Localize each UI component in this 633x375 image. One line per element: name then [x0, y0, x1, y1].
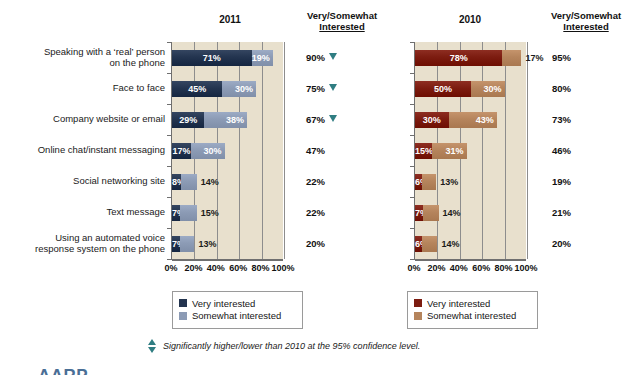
bar-value-label-somewhat: 43% [476, 115, 494, 125]
significantly-lower-arrow-icon [329, 53, 337, 60]
bar-segment-somewhat: 30% [191, 143, 225, 159]
legend-swatch-very-icon [179, 299, 187, 307]
total-value: 22% [306, 207, 325, 218]
bar-value-label-somewhat: 14% [201, 177, 219, 187]
bar-row: 15%31% [415, 143, 526, 159]
significance-marker-icon [148, 339, 157, 353]
bar-segment-very: 78% [415, 50, 502, 66]
bar-row: 29%38% [172, 112, 283, 128]
category-label-line: Social networking site [0, 176, 165, 187]
total-value-text: 22% [306, 207, 325, 218]
bar-segment-very: 6% [415, 174, 422, 190]
bar-value-label-somewhat: 14% [441, 239, 459, 249]
total-value-text: 75% [306, 83, 325, 94]
bar-value-label-somewhat: 13% [440, 177, 458, 187]
bar-segment-somewhat: 14% [422, 236, 438, 252]
category-label-line: Speaking with a ‘real’ person [0, 47, 165, 58]
legend-swatch-somewhat-icon [414, 312, 422, 320]
footnote-text: Significantly higher/lower than 2010 at … [163, 341, 420, 351]
bar-value-label-very: 15% [415, 146, 432, 156]
totals-header-left: Very/Somewhat Interested [294, 10, 390, 32]
total-value: 80% [552, 83, 571, 94]
category-label: Online chat/instant messaging [0, 145, 165, 156]
category-label-line: response system on the phone [0, 244, 165, 255]
category-label-line: Face to face [0, 83, 165, 94]
bar-value-label-somewhat: 38% [226, 115, 244, 125]
legend-label-somewhat: Somewhat interested [192, 310, 281, 321]
y-axis-tick [410, 228, 415, 229]
bar-value-label-very: 71% [172, 53, 252, 63]
bar-row: 6%14% [415, 236, 526, 252]
bar-segment-very: 6% [415, 236, 422, 252]
bar-row: 8%14% [172, 174, 283, 190]
category-label-line: Online chat/instant messaging [0, 145, 165, 156]
y-axis-tick [167, 42, 172, 43]
gridline [284, 42, 285, 259]
bar-value-label-very: 29% [172, 115, 204, 125]
bar-value-label-very: 7% [172, 208, 180, 218]
totals-header-left-line1: Very/Somewhat [294, 10, 390, 21]
bar-segment-very: 8% [172, 174, 181, 190]
plot-area-2010: 78%17%50%30%30%43%15%31%6%13%7%14%6%14% [414, 42, 526, 259]
y-axis-tick [167, 197, 172, 198]
bar-value-label-somewhat: 31% [446, 146, 464, 156]
category-label-line: Company website or email [0, 114, 165, 125]
total-value-text: 90% [306, 52, 325, 63]
bar-value-label-somewhat: 30% [204, 146, 222, 156]
gridline [527, 42, 528, 259]
legend-row-somewhat-2010: Somewhat interested [414, 310, 529, 321]
significantly-lower-arrow-icon [329, 84, 337, 91]
bar-value-label-very: 45% [172, 84, 222, 94]
y-axis-tick [167, 73, 172, 74]
bar-segment-very: 7% [172, 205, 180, 221]
y-axis-tick [167, 259, 172, 260]
y-axis-tick [167, 135, 172, 136]
y-axis-tick [167, 228, 172, 229]
bar-value-label-very: 78% [415, 53, 502, 63]
total-value-text: 22% [306, 176, 325, 187]
category-label: Social networking site [0, 176, 165, 187]
bar-value-label-very: 17% [172, 146, 191, 156]
panel-title-2010: 2010 [420, 14, 520, 25]
legend-row-very-2011: Very interested [179, 298, 294, 309]
bar-segment-very: 7% [172, 236, 180, 252]
y-axis-tick [167, 166, 172, 167]
bar-row: 6%13% [415, 174, 526, 190]
legend-label-very: Very interested [192, 298, 255, 309]
bar-value-label-somewhat: 30% [235, 84, 253, 94]
bar-value-label-somewhat: 17% [525, 53, 543, 63]
bar-segment-somewhat: 38% [204, 112, 247, 128]
totals-header-right: Very/Somewhat Interested [538, 10, 633, 32]
bar-value-label-somewhat: 19% [252, 53, 270, 63]
bar-segment-somewhat: 19% [252, 50, 273, 66]
y-axis-tick [410, 197, 415, 198]
total-value: 73% [552, 114, 571, 125]
category-label-line: Using an automated voice [0, 233, 165, 244]
bar-segment-very: 15% [415, 143, 432, 159]
total-value-text: 47% [306, 145, 325, 156]
total-value: 90% [306, 52, 337, 63]
total-value: 21% [552, 207, 571, 218]
bar-segment-very: 50% [415, 81, 471, 97]
y-axis-tick [410, 135, 415, 136]
bar-value-label-very: 7% [415, 208, 423, 218]
total-value-text: 21% [552, 207, 571, 218]
bar-segment-somewhat: 17% [502, 50, 521, 66]
bar-value-label-very: 30% [415, 115, 449, 125]
bar-segment-somewhat: 13% [180, 236, 195, 252]
bar-value-label-somewhat: 13% [198, 239, 216, 249]
bar-segment-somewhat: 30% [222, 81, 256, 97]
bar-value-label-somewhat: 14% [443, 208, 461, 218]
footnote: Significantly higher/lower than 2010 at … [148, 339, 420, 353]
category-label: Text message [0, 207, 165, 218]
bar-row: 17%30% [172, 143, 283, 159]
bar-value-label-somewhat: 15% [201, 208, 219, 218]
category-label: Using an automated voiceresponse system … [0, 233, 165, 254]
bar-segment-somewhat: 13% [422, 174, 437, 190]
panel-title-2011: 2011 [180, 14, 280, 25]
bar-row: 78%17% [415, 50, 526, 66]
bar-segment-very: 71% [172, 50, 252, 66]
legend-swatch-somewhat-icon [179, 312, 187, 320]
category-label: Speaking with a ‘real’ personon the phon… [0, 47, 165, 68]
bar-segment-somewhat: 30% [471, 81, 505, 97]
